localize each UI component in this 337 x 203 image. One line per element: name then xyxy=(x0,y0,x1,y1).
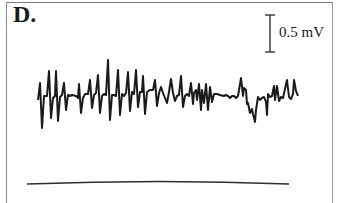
scale-bar-label: 0.5 mV xyxy=(279,25,324,40)
spike-trace xyxy=(38,60,298,128)
scale-bar xyxy=(265,15,275,52)
baseline-trace xyxy=(27,182,289,185)
